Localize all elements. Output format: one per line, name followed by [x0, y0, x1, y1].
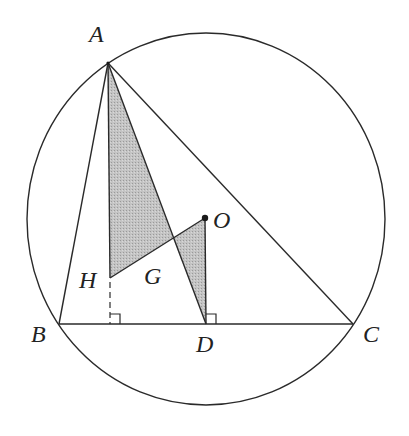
diagram-canvas	[0, 0, 409, 436]
label-B: B	[31, 322, 46, 346]
label-G: G	[144, 264, 161, 288]
label-A: A	[89, 22, 104, 46]
point-O-dot	[202, 215, 208, 221]
label-C: C	[363, 322, 379, 346]
label-O: O	[213, 208, 230, 232]
label-D: D	[196, 332, 213, 356]
right-angle-marker-D	[206, 314, 216, 324]
point-A-dot	[106, 61, 109, 64]
shaded-triangle-GOD	[173, 218, 206, 324]
shaded-triangle-AHG	[108, 63, 173, 278]
right-angle-marker-altitude	[110, 314, 120, 324]
segment-OD	[205, 218, 206, 324]
label-H: H	[79, 268, 96, 292]
geometry-figure: A B C D O H G	[0, 0, 409, 436]
